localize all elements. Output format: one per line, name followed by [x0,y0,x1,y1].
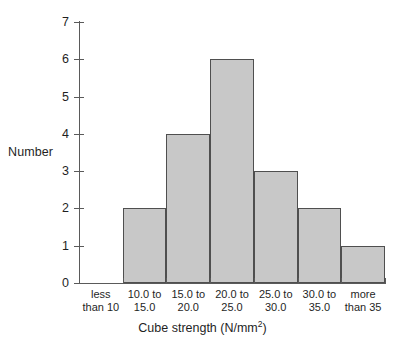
x-axis-tick-mark [298,278,299,284]
x-axis-tick-mark [166,278,167,284]
x-axis-category-label: 25.0 to 30.0 [254,288,298,313]
histogram-chart: Number 01234567 less than 1010.0 to 15.0… [0,0,405,349]
plot-area [79,22,385,283]
y-axis-tick-label-text: 7 [51,16,69,29]
x-axis-tick-mark [123,278,124,284]
x-axis-category-label: 20.0 to 25.0 [210,288,254,313]
x-axis-title-main: Cube strength (N/mm [138,321,257,335]
y-axis-tick-label-text: 4 [51,128,69,141]
bar [210,59,254,283]
bar [341,246,385,283]
bar [298,208,342,283]
x-axis-tick-mark [210,278,211,284]
x-axis-tick-mark [254,278,255,284]
x-axis-tick-mark [341,278,342,284]
y-axis-label: Number [8,145,74,159]
y-axis-tick-label: 5 [49,91,69,103]
y-axis-tick-label: 6 [49,53,69,65]
y-axis-tick-label: 0 [49,277,69,289]
y-axis-tick-label-text: 6 [51,53,69,66]
bar [254,171,298,283]
y-axis-tick-label: 3 [49,165,69,177]
bar [166,134,210,283]
x-axis-tick-mark [385,278,386,284]
y-axis-tick-label: 1 [49,240,69,252]
y-axis-tick-label-text: 2 [51,202,69,215]
x-axis-category-label: 15.0 to 20.0 [166,288,210,313]
y-axis-tick-label-text: 5 [51,91,69,104]
x-axis-title-tail: ) [263,321,267,335]
bar [123,208,167,283]
y-axis-tick-label: 4 [49,128,69,140]
x-axis-category-label: more than 35 [341,288,385,313]
y-axis-tick-label: 7 [49,16,69,28]
x-axis-category-label: 30.0 to 35.0 [298,288,342,313]
x-axis-title: Cube strength (N/mm2) [0,321,405,335]
x-axis-tick-mark [79,278,80,284]
y-axis-tick-label-text: 3 [51,165,69,178]
x-axis-line [79,283,386,284]
y-axis-tick-label-text: 0 [51,277,69,290]
y-axis-tick-label-text: 1 [51,240,69,253]
x-axis-category-label: 10.0 to 15.0 [123,288,167,313]
y-axis-tick-label: 2 [49,202,69,214]
x-axis-category-label: less than 10 [79,288,123,313]
